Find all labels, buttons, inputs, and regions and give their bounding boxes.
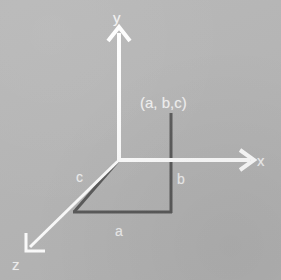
y-axis-label: y — [113, 10, 121, 25]
z-axis-label: z — [12, 257, 20, 272]
x-axis-label: x — [257, 153, 265, 168]
diagram-canvas: y x z (a, b,c) c a b — [0, 0, 281, 280]
z-axis-line — [30, 160, 119, 247]
coordinate-axes-figure — [0, 0, 281, 280]
segment-label-a: a — [115, 224, 123, 238]
point-coordinate-label: (a, b,c) — [140, 95, 187, 110]
segment-label-c: c — [76, 170, 83, 184]
segment-label-b: b — [177, 172, 185, 186]
